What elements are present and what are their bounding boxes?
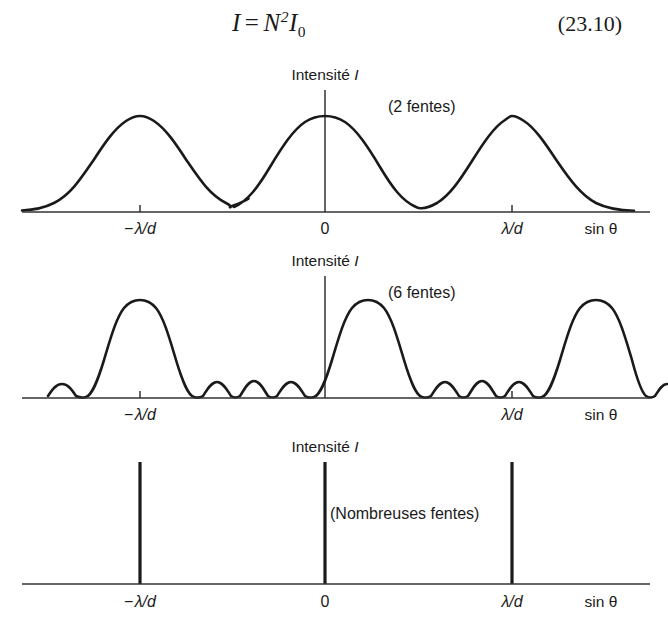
tick-label-zero-nombreuses-fentes: 0 [321, 593, 330, 610]
equation-rhs-exponent: 2 [281, 8, 289, 25]
x-axis-name-nombreuses-fentes: sin θ [585, 593, 618, 610]
equation-lhs: I [232, 9, 241, 36]
y-axis-title-2-fentes: Intensité I [291, 66, 359, 83]
intensity-curve-2-fentes [22, 116, 634, 211]
chart-svg-nombreuses-fentes: Intensité I − λ/d 0 λ/d sin θ (Nombreuse… [0, 432, 668, 632]
equation-operator: = [241, 9, 264, 36]
tick-label-neg-lambda-d-2-fentes: − λ/d [124, 220, 157, 237]
annotation-2-fentes: (2 fentes) [388, 98, 456, 115]
chart-svg-2-fentes: Intensité I − λ/d 0 λ/d sin θ (2 fentes) [0, 62, 668, 252]
y-axis-title-6-fentes: Intensité I [291, 252, 359, 269]
tick-label-zero-2-fentes: 0 [321, 220, 330, 237]
equation-rhs-factor-subscript: 0 [298, 23, 306, 40]
tick-label-neg-lambda-d-6-fentes: − λ/d [124, 406, 157, 423]
tick-label-pos-lambda-d-nombreuses-fentes: λ/d [500, 593, 523, 610]
equation-rhs-factor: I [289, 9, 298, 36]
chart-panel-2-fentes: Intensité I − λ/d 0 λ/d sin θ (2 fentes) [0, 62, 668, 252]
equation-row: I=N2I0 (23.10) [0, 8, 668, 52]
chart-panel-nombreuses-fentes: Intensité I − λ/d 0 λ/d sin θ (Nombreuse… [0, 432, 668, 632]
tick-label-pos-lambda-d-6-fentes: λ/d [500, 406, 523, 423]
annotation-nombreuses-fentes: (Nombreuses fentes) [330, 505, 479, 522]
tick-label-pos-lambda-d-2-fentes: λ/d [500, 220, 523, 237]
chart-panel-6-fentes: Intensité I − λ/d λ/d sin θ (6 fentes) [0, 248, 668, 438]
annotation-6-fentes: (6 fentes) [388, 284, 456, 301]
intensity-curve-6-fentes [48, 300, 667, 398]
x-axis-name-6-fentes: sin θ [585, 406, 618, 423]
equation-rhs-base: N [263, 9, 280, 36]
equation-number: (23.10) [558, 11, 622, 37]
chart-svg-6-fentes: Intensité I − λ/d λ/d sin θ (6 fentes) [0, 248, 668, 438]
tick-label-neg-lambda-d-nombreuses-fentes: − λ/d [124, 593, 157, 610]
equation-formula: I=N2I0 [232, 8, 306, 41]
x-axis-name-2-fentes: sin θ [585, 220, 618, 237]
y-axis-title-nombreuses-fentes: Intensité I [291, 438, 359, 455]
